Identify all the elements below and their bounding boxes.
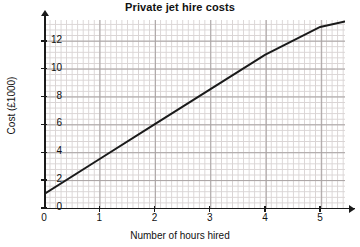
chart-container: Private jet hire costs 024681012 012345 … <box>0 0 360 247</box>
y-tick-label-0: 0 <box>22 201 62 212</box>
x-tick-label-5: 5 <box>305 212 335 223</box>
x-tick-label-2: 2 <box>139 212 169 223</box>
x-axis-line <box>43 208 355 210</box>
y-axis-title: Cost (£1000) <box>6 41 17 171</box>
x-tick-label-0: 0 <box>29 212 59 223</box>
y-tick-label-6: 6 <box>22 117 62 128</box>
y-tick-label-4: 4 <box>22 145 62 156</box>
x-tick-label-4: 4 <box>250 212 280 223</box>
x-axis-arrow-icon <box>349 205 355 213</box>
plot-area <box>44 20 345 208</box>
y-tick-label-8: 8 <box>22 90 62 101</box>
series-line-hire-cost <box>44 21 345 194</box>
x-tick-label-1: 1 <box>84 212 114 223</box>
x-axis-title: Number of hours hired <box>0 230 360 241</box>
chart-title: Private jet hire costs <box>0 1 360 13</box>
y-axis-arrow-icon <box>41 10 49 16</box>
y-tick-label-2: 2 <box>22 173 62 184</box>
x-tick-label-3: 3 <box>195 212 225 223</box>
data-line-svg <box>44 20 345 208</box>
y-tick-label-12: 12 <box>22 34 62 45</box>
y-tick-label-10: 10 <box>22 62 62 73</box>
